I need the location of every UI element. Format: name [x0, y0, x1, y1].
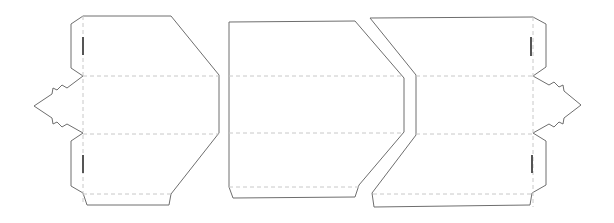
left-panel-outline	[34, 16, 219, 205]
middle-panel-outline	[229, 21, 404, 198]
template-drawing	[0, 0, 614, 223]
middle-panel	[229, 21, 404, 198]
die-cut-template	[0, 0, 614, 223]
left-panel	[34, 16, 219, 205]
